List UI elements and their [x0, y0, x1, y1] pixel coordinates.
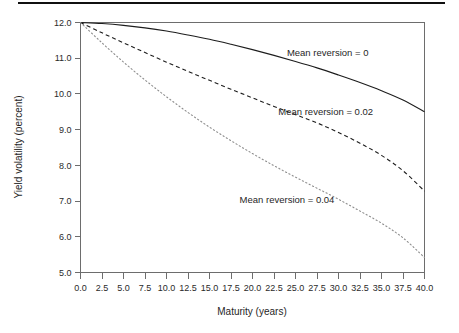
x-tick-label: 2.5: [96, 283, 109, 293]
data-series-group: [81, 23, 425, 258]
x-tick-label: 32.5: [351, 283, 369, 293]
y-tick-label: 7.0: [59, 196, 72, 206]
x-tick-label: 15.0: [201, 283, 219, 293]
y-tick-label: 10.0: [54, 89, 72, 99]
x-tick-label: 30.0: [330, 283, 348, 293]
series-annotations: Mean reversion = 0Mean reversion = 0.02M…: [240, 47, 373, 204]
x-axis-title: Maturity (years): [217, 306, 286, 317]
x-tick-label: 5.0: [117, 283, 130, 293]
x-tick-label: 10.0: [158, 283, 176, 293]
y-axis-title: Yield volatility (percent): [13, 95, 24, 198]
plot-frame: [81, 23, 425, 273]
y-tick-label: 6.0: [59, 232, 72, 242]
x-tick-label: 25.0: [287, 283, 305, 293]
y-tick-label: 11.0: [55, 53, 72, 63]
series-line: [81, 23, 425, 112]
x-tick-label: 22.5: [265, 283, 283, 293]
x-axis: 0.02.55.07.510.012.515.017.520.022.525.0…: [74, 273, 433, 293]
x-tick-label: 12.5: [179, 283, 197, 293]
x-tick-label: 7.5: [139, 283, 152, 293]
figure-container: 5.06.07.08.09.010.011.012.0 0.02.55.07.5…: [0, 0, 459, 333]
yield-volatility-chart: 5.06.07.08.09.010.011.012.0 0.02.55.07.5…: [0, 0, 459, 333]
y-tick-label: 9.0: [59, 125, 72, 135]
series-line: [81, 23, 425, 258]
x-tick-label: 27.5: [308, 283, 326, 293]
x-tick-label: 0.0: [74, 283, 87, 293]
y-tick-label: 5.0: [59, 268, 72, 278]
series-annotation-label: Mean reversion = 0.02: [278, 106, 373, 117]
x-tick-label: 20.0: [244, 283, 262, 293]
x-tick-label: 40.0: [416, 283, 434, 293]
y-tick-label: 8.0: [59, 161, 72, 171]
x-tick-label: 35.0: [373, 283, 391, 293]
y-axis: 5.06.07.08.09.010.011.012.0: [54, 18, 81, 278]
series-annotation-label: Mean reversion = 0.04: [240, 194, 335, 205]
series-annotation-label: Mean reversion = 0: [287, 47, 369, 58]
y-tick-label: 12.0: [54, 18, 72, 28]
x-tick-label: 37.5: [394, 283, 412, 293]
x-tick-label: 17.5: [222, 283, 240, 293]
